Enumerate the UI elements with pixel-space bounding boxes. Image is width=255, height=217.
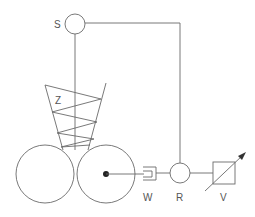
left-roller bbox=[16, 145, 74, 203]
w-bracket-outer bbox=[143, 167, 156, 180]
signal-line-s-to-r bbox=[85, 23, 180, 163]
sensor-s: S bbox=[54, 14, 85, 34]
component-v: V bbox=[205, 152, 246, 203]
label-r: R bbox=[176, 192, 183, 203]
w-bracket-inner bbox=[143, 171, 152, 177]
label-w: W bbox=[143, 192, 153, 203]
label-v: V bbox=[220, 192, 227, 203]
schematic-diagram: S Z W R V bbox=[0, 0, 255, 217]
label-z: Z bbox=[55, 95, 61, 106]
r-circle bbox=[170, 163, 190, 183]
label-s: S bbox=[54, 19, 61, 30]
funnel-z: Z bbox=[45, 83, 106, 150]
sensor-s-circle bbox=[65, 14, 85, 34]
component-w: W bbox=[143, 167, 156, 203]
component-r: R bbox=[170, 163, 190, 203]
